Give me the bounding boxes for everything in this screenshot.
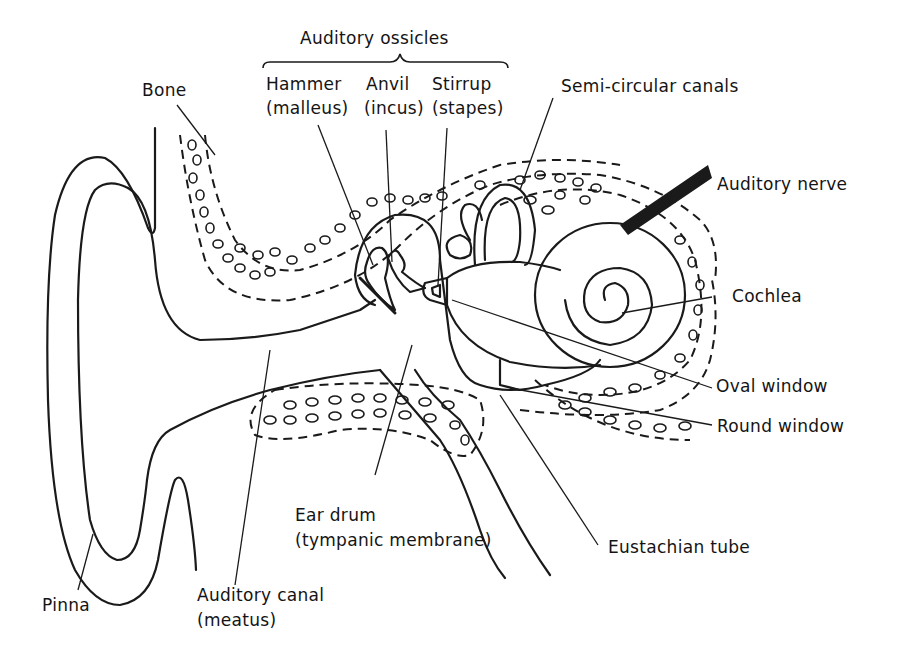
label-cochlea: Cochlea bbox=[732, 286, 802, 307]
bone-lower bbox=[251, 383, 484, 456]
label-eustachian-tube: Eustachian tube bbox=[608, 537, 750, 558]
label-auditory-nerve: Auditory nerve bbox=[717, 174, 847, 195]
label-bone: Bone bbox=[142, 80, 187, 101]
label-hammer: Hammer bbox=[266, 74, 342, 95]
label-auditory-canal: Auditory canal bbox=[197, 585, 324, 606]
cochlea bbox=[447, 223, 685, 368]
label-round-window: Round window bbox=[717, 416, 844, 437]
round-window bbox=[500, 360, 520, 390]
label-stirrup: Stirrup bbox=[432, 74, 492, 95]
label-semicircular-canals: Semi-circular canals bbox=[561, 76, 739, 97]
label-meatus: (meatus) bbox=[197, 610, 276, 631]
ear-diagram: Auditory ossicles Hammer (malleus) Anvil… bbox=[0, 0, 903, 668]
label-hammer-latin: (malleus) bbox=[266, 98, 348, 119]
label-auditory-ossicles: Auditory ossicles bbox=[300, 28, 449, 49]
label-anvil-latin: (incus) bbox=[364, 98, 424, 119]
anvil-bone bbox=[388, 251, 425, 292]
label-tympanic-membrane: (tympanic membrane) bbox=[295, 530, 492, 551]
label-ear-drum: Ear drum bbox=[295, 505, 376, 526]
label-oval-window: Oval window bbox=[716, 376, 828, 397]
ossicles-brace bbox=[263, 54, 508, 68]
label-anvil: Anvil bbox=[366, 74, 409, 95]
ossicles bbox=[365, 248, 447, 310]
label-stirrup-latin: (stapes) bbox=[432, 98, 504, 119]
label-pinna: Pinna bbox=[42, 595, 90, 616]
